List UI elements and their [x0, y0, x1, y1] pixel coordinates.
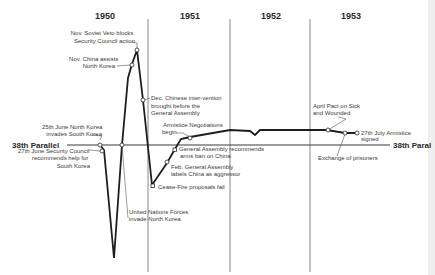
- leader-arms-neg: [176, 133, 190, 137]
- annotation-april: April Pact on Sick and Wounded: [313, 103, 362, 116]
- marker-25june: [98, 143, 102, 147]
- marker-feb: [165, 160, 169, 164]
- year-label-1953: 1953: [341, 11, 361, 21]
- annotation-dec: Dec. Chinese inter-vention brought befor…: [151, 95, 223, 116]
- year-label-1950: 1950: [95, 11, 115, 21]
- annotation-arms: General Assembly recommends arms ban on …: [179, 146, 266, 159]
- annotation-nov-china: Nov. China assists North Korea: [69, 56, 120, 69]
- marker-un: [120, 143, 124, 147]
- marker-exchange: [343, 131, 347, 135]
- parallel-label-right: 38th Paral: [393, 141, 431, 150]
- marker-armistice-neg: [188, 136, 192, 140]
- leader-un: [122, 146, 128, 218]
- marker-april: [326, 128, 330, 132]
- marker-july: [355, 131, 359, 135]
- marker-nov-china: [130, 63, 134, 67]
- annotation-nov-veto: Nov. Soviet Veto blocks Security Council…: [71, 30, 135, 44]
- annotation-feb: Feb. General Assembly labels China as ag…: [171, 164, 240, 177]
- year-label-1951: 1951: [180, 11, 200, 21]
- marker-arms: [173, 148, 177, 152]
- year-label-1952: 1952: [261, 11, 281, 21]
- korean-war-timeline-chart: 1950 1951 1952 1953 38th Parallel 38th P…: [0, 0, 435, 275]
- annotation-ceasefire: Cease-Fire proposals fail: [158, 184, 225, 190]
- annotation-exchange: Exchange of prisoners: [318, 155, 378, 161]
- marker-dec: [141, 98, 145, 102]
- annotation-27june: 27th June Security Council recommends he…: [18, 148, 91, 169]
- annotation-un: United Nations Forces invade North Korea: [129, 209, 190, 222]
- annotation-25june: 25th June North Korea invades South Kore…: [42, 124, 104, 137]
- marker-ceasefire: [151, 184, 155, 188]
- leader-nov-china: [117, 65, 131, 66]
- leader-april: [328, 117, 346, 130]
- marker-nov-veto: [135, 48, 139, 52]
- marker-27june: [100, 149, 104, 153]
- page-edge: [428, 0, 435, 275]
